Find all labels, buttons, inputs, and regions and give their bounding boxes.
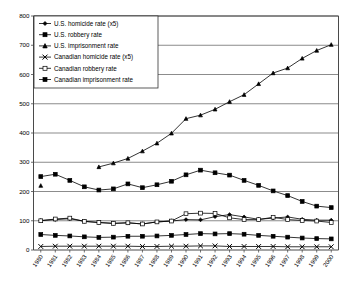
data-point-triangle bbox=[39, 184, 43, 188]
x-tick-label: 1989 bbox=[162, 253, 175, 268]
data-point-square-open bbox=[53, 217, 57, 221]
y-tick-label: 300 bbox=[19, 158, 30, 165]
x-tick-label: 1986 bbox=[119, 253, 132, 268]
data-point-square bbox=[39, 233, 43, 237]
data-point-square bbox=[286, 194, 290, 198]
data-point-square bbox=[315, 237, 319, 241]
x-tick-marks bbox=[41, 250, 331, 253]
y-tick-label: 800 bbox=[19, 12, 30, 19]
y-tick-label: 700 bbox=[19, 41, 30, 48]
data-point-square bbox=[111, 235, 115, 239]
data-point-triangle bbox=[184, 117, 188, 121]
data-point-square-open bbox=[82, 219, 86, 223]
data-point-triangle bbox=[213, 107, 217, 111]
data-point-square bbox=[97, 188, 101, 192]
x-tick-label: 1987 bbox=[133, 253, 146, 268]
series-5 bbox=[39, 232, 333, 241]
data-point-square bbox=[155, 183, 159, 187]
data-point-triangle bbox=[315, 49, 319, 53]
y-tick-label: 200 bbox=[19, 188, 30, 195]
data-point-square-open bbox=[155, 220, 159, 224]
y-tick-label: 500 bbox=[19, 100, 30, 107]
data-point-square-open bbox=[43, 66, 47, 70]
x-tick-label: 1982 bbox=[61, 253, 74, 268]
legend-label: Canadian homicide rate (x5) bbox=[54, 53, 133, 61]
data-point-square-open bbox=[300, 219, 304, 223]
data-point-square bbox=[329, 237, 333, 241]
data-point-square-open bbox=[199, 211, 203, 215]
data-point-triangle bbox=[111, 161, 115, 165]
data-point-square bbox=[257, 183, 261, 187]
data-point-square bbox=[97, 236, 101, 240]
data-point-square bbox=[300, 200, 304, 204]
y-axis-labels: 0100200300400500600700800 bbox=[19, 12, 30, 253]
legend-label: U.S. imprisonment rate bbox=[54, 42, 119, 50]
data-point-square-open bbox=[315, 219, 319, 223]
data-point-triangle bbox=[286, 66, 290, 70]
data-point-square bbox=[155, 234, 159, 238]
legend: U.S. homicide rate (x5)U.S. robbery rate… bbox=[34, 16, 158, 88]
x-tick-label: 1997 bbox=[278, 253, 291, 268]
data-point-square bbox=[68, 178, 72, 182]
data-point-triangle bbox=[228, 100, 232, 104]
x-tick-label: 1995 bbox=[249, 253, 262, 268]
legend-label: Canadian imprisonment rate bbox=[54, 76, 134, 84]
x-tick-label: 1981 bbox=[46, 253, 59, 268]
data-point-square-open bbox=[97, 221, 101, 225]
data-point-square bbox=[82, 185, 86, 189]
data-point-square bbox=[82, 235, 86, 239]
chart-canvas: 0100200300400500600700800 19801981198219… bbox=[0, 0, 354, 284]
data-point-triangle bbox=[155, 141, 159, 145]
data-point-square bbox=[184, 173, 188, 177]
data-point-square bbox=[315, 204, 319, 208]
data-point-square bbox=[111, 187, 115, 191]
data-point-square bbox=[271, 234, 275, 238]
x-axis-labels: 1980198119821983198419851986198719881989… bbox=[32, 253, 335, 268]
legend-label: Canadian robbery rate bbox=[54, 65, 117, 73]
series-1 bbox=[39, 168, 333, 209]
data-point-square bbox=[199, 168, 203, 172]
x-tick-label: 1988 bbox=[148, 253, 161, 268]
data-point-square bbox=[170, 179, 174, 183]
legend-item-3[interactable]: Canadian homicide rate (x5) bbox=[39, 53, 133, 61]
data-point-triangle bbox=[126, 156, 130, 160]
data-point-triangle bbox=[199, 113, 203, 117]
data-point-square-open bbox=[68, 216, 72, 220]
data-point-diamond bbox=[199, 218, 203, 222]
data-point-triangle bbox=[300, 56, 304, 60]
data-point-square bbox=[271, 189, 275, 193]
x-tick-label: 1983 bbox=[75, 253, 88, 268]
data-point-square-open bbox=[228, 216, 232, 220]
data-point-square-open bbox=[111, 221, 115, 225]
data-point-square bbox=[329, 206, 333, 210]
data-point-square bbox=[242, 178, 246, 182]
data-point-square bbox=[141, 234, 145, 238]
data-point-square bbox=[126, 182, 130, 186]
data-point-triangle bbox=[97, 165, 101, 169]
data-point-square bbox=[213, 171, 217, 175]
x-tick-label: 1992 bbox=[206, 253, 219, 268]
data-point-square-open bbox=[141, 222, 145, 226]
data-point-square bbox=[300, 236, 304, 240]
data-point-square bbox=[286, 235, 290, 239]
data-point-square bbox=[53, 172, 57, 176]
data-point-square-open bbox=[286, 218, 290, 222]
x-tick-label: 1993 bbox=[220, 253, 233, 268]
legend-item-5[interactable]: Canadian imprisonment rate bbox=[39, 76, 134, 84]
x-tick-label: 1985 bbox=[104, 253, 117, 268]
legend-label: U.S. robbery rate bbox=[54, 31, 102, 39]
x-tick-label: 1991 bbox=[191, 253, 204, 268]
data-point-square bbox=[39, 175, 43, 179]
data-point-square bbox=[43, 78, 47, 82]
data-point-square-open bbox=[257, 218, 261, 222]
data-point-square bbox=[199, 232, 203, 236]
x-tick-label: 1996 bbox=[264, 253, 277, 268]
data-point-square bbox=[242, 232, 246, 236]
legend-label: U.S. homicide rate (x5) bbox=[54, 20, 118, 28]
data-point-triangle bbox=[271, 71, 275, 75]
y-tick-label: 100 bbox=[19, 217, 30, 224]
data-point-triangle bbox=[329, 43, 333, 47]
x-tick-label: 1980 bbox=[32, 253, 45, 268]
data-point-square bbox=[213, 232, 217, 236]
data-point-triangle bbox=[141, 149, 145, 153]
